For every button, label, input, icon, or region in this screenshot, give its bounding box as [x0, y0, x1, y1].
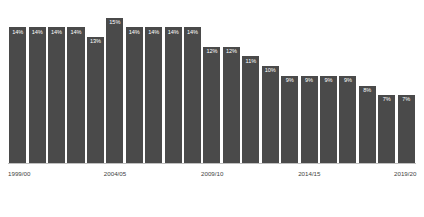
chart-plot-area: 14%14%14%14%13%15%14%14%14%14%12%12%11%1… — [8, 8, 416, 163]
bar-chart: 14%14%14%14%13%15%14%14%14%14%12%12%11%1… — [0, 0, 424, 217]
bar-slot: 7% — [398, 8, 415, 163]
bar-value-label: 9% — [286, 76, 294, 84]
bar[interactable]: 13% — [87, 37, 104, 163]
bar-value-label: 14% — [12, 27, 23, 35]
bar[interactable]: 14% — [165, 27, 182, 163]
bar-slot: 14% — [145, 8, 162, 163]
bar-slot: 9% — [339, 8, 356, 163]
bar-value-label: 14% — [32, 27, 43, 35]
bar-value-label: 9% — [344, 76, 352, 84]
bar-value-label: 14% — [129, 27, 140, 35]
bar[interactable]: 14% — [145, 27, 162, 163]
bar-slot: 15% — [106, 8, 123, 163]
bar[interactable]: 14% — [184, 27, 201, 163]
bar-slot: 14% — [9, 8, 26, 163]
bar-value-label: 10% — [265, 66, 276, 74]
bar-value-label: 7% — [383, 95, 391, 103]
bar-slot: 7% — [378, 8, 395, 163]
x-axis-line — [8, 163, 416, 164]
bar-slot: 10% — [262, 8, 279, 163]
bar[interactable]: 9% — [281, 76, 298, 163]
bar-slot: 14% — [165, 8, 182, 163]
bar[interactable]: 14% — [9, 27, 26, 163]
x-axis-tick-label: 2014/15 — [298, 170, 320, 177]
bar[interactable]: 7% — [398, 95, 415, 163]
bar-slot: 14% — [29, 8, 46, 163]
bar-value-label: 14% — [148, 27, 159, 35]
bar[interactable]: 14% — [29, 27, 46, 163]
bar-value-label: 14% — [51, 27, 62, 35]
bar-value-label: 7% — [402, 95, 410, 103]
bar-slot: 14% — [48, 8, 65, 163]
bar[interactable]: 12% — [223, 47, 240, 163]
bar-value-label: 11% — [246, 56, 256, 64]
bar-slot: 14% — [67, 8, 84, 163]
bar-value-label: 9% — [305, 76, 313, 84]
bar-value-label: 14% — [71, 27, 82, 35]
bar[interactable]: 9% — [301, 76, 318, 163]
x-axis-tick-label: 2009/10 — [201, 170, 223, 177]
x-axis-tick-label: 2004/05 — [104, 170, 126, 177]
bar-slot: 9% — [320, 8, 337, 163]
bar-slot: 8% — [359, 8, 376, 163]
bar-value-label: 14% — [187, 27, 198, 35]
bar-slot: 11% — [242, 8, 259, 163]
bar[interactable]: 9% — [320, 76, 337, 163]
bar[interactable]: 10% — [262, 66, 279, 163]
bar-slot: 12% — [203, 8, 220, 163]
bar[interactable]: 11% — [242, 56, 259, 163]
bar[interactable]: 7% — [378, 95, 395, 163]
bar-value-label: 13% — [90, 37, 101, 45]
bar[interactable]: 14% — [48, 27, 65, 163]
bar-slot: 9% — [281, 8, 298, 163]
x-axis-tick-label: 2019/20 — [394, 170, 416, 177]
bar-value-label: 8% — [363, 86, 371, 94]
x-axis-tick-labels: 1999/002004/052009/102014/152019/20 — [8, 170, 416, 184]
bar[interactable]: 15% — [106, 18, 123, 163]
bar-value-label: 9% — [325, 76, 333, 84]
bar-slot: 12% — [223, 8, 240, 163]
bar-value-label: 14% — [168, 27, 179, 35]
bar[interactable]: 14% — [67, 27, 84, 163]
bar[interactable]: 12% — [203, 47, 220, 163]
bar[interactable]: 8% — [359, 86, 376, 164]
bar-slot: 13% — [87, 8, 104, 163]
bar-value-label: 12% — [226, 47, 237, 55]
bar-slot: 14% — [126, 8, 143, 163]
bar-slot: 14% — [184, 8, 201, 163]
x-axis-tick-label: 1999/00 — [8, 170, 30, 177]
bar[interactable]: 14% — [126, 27, 143, 163]
bar-value-label: 15% — [109, 18, 120, 26]
bar[interactable]: 9% — [339, 76, 356, 163]
bar-slot: 9% — [301, 8, 318, 163]
bar-value-label: 12% — [206, 47, 217, 55]
